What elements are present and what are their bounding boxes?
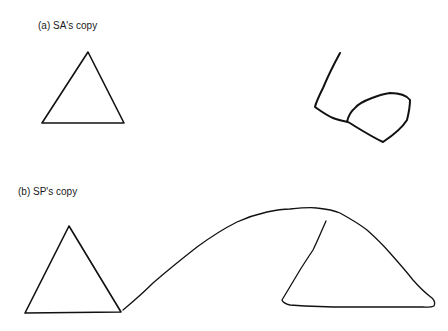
panel-a-copy-drawing — [315, 53, 410, 142]
drawing-canvas — [0, 0, 448, 331]
panel-b-arc-stroke — [123, 208, 435, 310]
panel-a-triangle — [42, 52, 124, 123]
panel-b-triangle — [25, 226, 121, 313]
